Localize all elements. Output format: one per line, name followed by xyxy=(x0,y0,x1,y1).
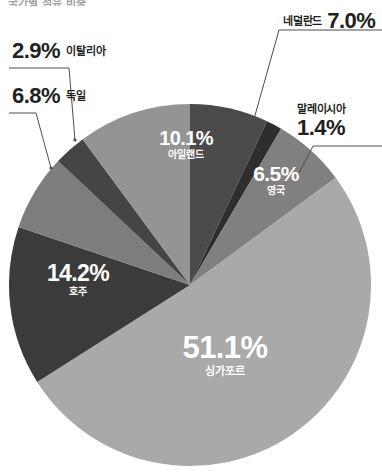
slice-label-australia-value: 14.2% xyxy=(28,262,128,285)
slice-label-ireland-value: 10.1% xyxy=(138,128,234,148)
slice-label-germany: 6.8%독일 xyxy=(12,85,86,107)
slice-label-netherlands-value: 7.0% xyxy=(327,10,375,32)
slice-label-malaysia: 말레이시아 1.4% xyxy=(297,104,346,139)
slice-label-singapore-name: 싱가포르 xyxy=(163,366,287,377)
pie-chart-figure: 국가별 점유 비중 xyxy=(0,0,382,475)
slice-label-italy-name: 이탈리아 xyxy=(66,46,105,57)
slice-label-ireland-name: 아일랜드 xyxy=(138,150,234,160)
slice-label-netherlands: 네덜란드7.0% xyxy=(283,10,375,32)
slice-label-uk: 6.5% 영국 xyxy=(236,163,316,196)
slice-label-ireland: 10.1% 아일랜드 xyxy=(138,128,234,160)
leader-dot-germany xyxy=(49,166,52,169)
leader-dot-netherlands xyxy=(241,156,244,159)
slice-label-germany-value: 6.8% xyxy=(12,85,60,107)
slice-label-australia-name: 호주 xyxy=(28,287,128,297)
slice-label-germany-name: 독일 xyxy=(66,91,86,102)
slice-label-singapore: 51.1% 싱가포르 xyxy=(163,332,287,377)
slice-label-australia: 14.2% 호주 xyxy=(28,262,128,297)
slice-label-netherlands-name: 네덜란드 xyxy=(283,16,322,27)
slice-label-uk-name: 영국 xyxy=(236,186,316,196)
slice-label-uk-value: 6.5% xyxy=(236,163,316,184)
leader-line-germany xyxy=(9,113,51,168)
leader-dot-italy xyxy=(73,138,76,141)
slice-label-malaysia-name: 말레이시아 xyxy=(297,104,346,115)
slice-label-italy: 2.9%이탈리아 xyxy=(12,40,105,62)
pie-chart-canvas xyxy=(0,0,382,475)
slice-label-singapore-value: 51.1% xyxy=(163,332,287,363)
slice-label-malaysia-value: 1.4% xyxy=(297,117,346,139)
slice-label-italy-value: 2.9% xyxy=(12,40,60,62)
